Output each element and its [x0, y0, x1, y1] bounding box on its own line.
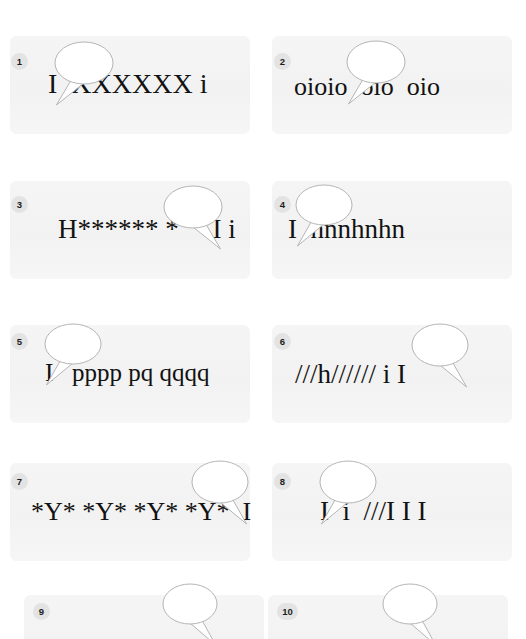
card-number-badge: 2	[274, 53, 291, 70]
card-surface	[24, 595, 264, 639]
card-number-badge: 10	[277, 603, 298, 620]
text-card[interactable]	[24, 595, 264, 639]
card-phrase: *Y* *Y* *Y* *Y* I	[31, 496, 251, 528]
card-number-badge: 3	[11, 196, 28, 213]
card-grid: 1I XXXXXX i2oioio oio oio3H****** * * I …	[0, 0, 526, 639]
card-phrase: I XXXXXX i	[48, 67, 207, 101]
card-number-badge: 8	[274, 473, 291, 490]
card-phrase: oioio oio oio	[294, 71, 440, 103]
card-number-badge: 1	[11, 53, 28, 70]
text-card[interactable]	[268, 595, 508, 639]
card-phrase: H****** * * I i	[58, 213, 236, 246]
card-phrase: I i ///I I I	[320, 495, 426, 528]
card-phrase: I nnnhnhn	[288, 213, 405, 246]
card-number-badge: 9	[33, 603, 50, 620]
card-number-badge: 5	[11, 333, 28, 350]
card-surface	[268, 595, 508, 639]
card-number-badge: 7	[11, 473, 28, 490]
card-number-badge: 4	[274, 196, 291, 213]
card-phrase: ///h////// i I	[295, 358, 406, 391]
card-number-badge: 6	[274, 333, 291, 350]
card-phrase: I pppp pq qqqq	[45, 358, 210, 389]
